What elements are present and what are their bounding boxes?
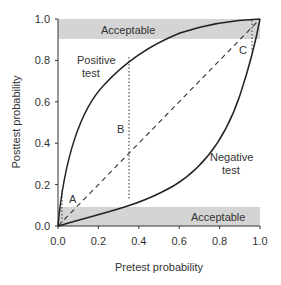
band-top-label: Acceptable: [101, 24, 155, 36]
band-bottom-label: Acceptable: [191, 211, 245, 223]
y-axis-title: Posttest probability: [10, 75, 22, 168]
label-negative-2: test: [222, 164, 240, 176]
annotation-b: B: [117, 123, 124, 135]
y-tick: 0.8: [35, 54, 50, 66]
label-positive-2: test: [82, 67, 100, 79]
x-axis: [58, 226, 260, 229]
y-axis: [55, 19, 58, 226]
x-tick: 0.6: [172, 235, 187, 247]
y-tick: 0.0: [35, 220, 50, 232]
annotation-c: C: [239, 44, 247, 56]
label-positive: Positive: [77, 54, 116, 66]
x-tick: 1.0: [252, 235, 267, 247]
chart: Acceptable Acceptable 1.0 0.8 0.6 0.4 0.…: [0, 0, 281, 285]
x-tick: 0.4: [131, 235, 146, 247]
x-tick: 0.2: [91, 235, 106, 247]
y-tick: 1.0: [35, 13, 50, 25]
y-tick: 0.2: [35, 179, 50, 191]
y-tick: 0.6: [35, 96, 50, 108]
y-tick: 0.4: [35, 137, 50, 149]
label-negative: Negative: [210, 151, 253, 163]
x-tick: 0.8: [212, 235, 227, 247]
x-tick-labels: 0.0 0.2 0.4 0.6 0.8 1.0: [50, 235, 267, 247]
x-axis-title: Pretest probability: [115, 261, 204, 273]
annotation-a: A: [69, 193, 77, 205]
y-tick-labels: 1.0 0.8 0.6 0.4 0.2 0.0: [35, 13, 50, 232]
x-tick: 0.0: [50, 235, 65, 247]
